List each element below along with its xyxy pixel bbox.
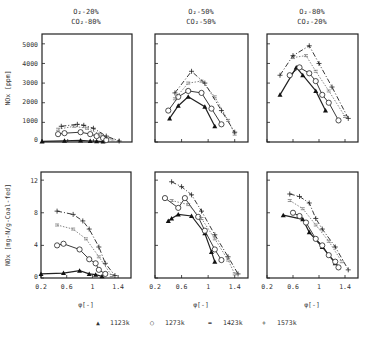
tick-4000: 4000 [22,60,38,68]
panel-top-middle [155,34,248,142]
top-y-tick-labels: 5000 4000 3000 2000 1000 0 [22,41,38,144]
legend-marker-1573k: + [262,319,266,327]
series-1123k [166,212,218,264]
legend-marker-1123k: ▲ [96,319,100,327]
panel-bottom-middle [155,172,248,278]
tick-0b: 0 [34,273,38,281]
title-col3-line2: CO₂-20% [297,18,327,26]
x-tick-1.4: 1.4 [229,283,241,291]
tick-3000: 3000 [22,79,38,87]
legend: ▲ 1123k ○ 1273k = 1423k + 1573k [96,319,297,327]
plot-panels [39,34,359,278]
tick-1000: 1000 [22,117,38,125]
legend-label-1123k: 1123k [110,319,130,327]
legend-marker-1273k: ○ [150,319,154,327]
title-col2-line2: CO₂-50% [186,18,216,26]
tick-12: 12 [30,177,38,185]
x-tick-0.6: 0.6 [61,283,73,291]
panel-top-right [267,34,358,142]
title-col3-line1: O₂-80% [299,8,325,16]
x-tick-1: 1 [90,283,94,291]
series-1423k [288,200,344,263]
series-1273k [287,65,341,123]
series-1123k [278,65,329,113]
x-tick-labels: 0.20.611.40.20.611.40.20.611.4 [35,283,351,291]
panel-bottom-right [267,172,358,278]
legend-label-1423k: 1423k [223,319,243,327]
tick-4: 4 [34,241,38,249]
legend-label-1573k: 1573k [277,319,297,327]
top-y-axis-label: NOx [ppm] [4,70,12,105]
title-col2-line1: O₂-50% [188,8,214,16]
x-tick-0.6: 0.6 [176,283,188,291]
x-tick-0.2: 0.2 [261,283,273,291]
nox-figure: O₂-20% CO₂-80% O₂-50% CO₂-50% O₂-80% CO₂… [0,0,381,339]
x-axis-label-2: φ[-] [193,301,209,309]
title-col1-line1: O₂-20% [73,8,99,16]
series-1123k [39,268,105,278]
x-tick-0.2: 0.2 [35,283,47,291]
x-tick-0.2: 0.2 [149,283,161,291]
tick-2000: 2000 [22,98,38,106]
panel-bottom-left [39,172,132,278]
x-axis-label-3: φ[-] [304,301,320,309]
column-titles: O₂-20% CO₂-80% O₂-50% CO₂-50% O₂-80% CO₂… [71,8,327,26]
tick-8: 8 [34,209,38,217]
bottom-y-axis-label: NOx [mg-N/g-Coal-fed] [4,184,12,266]
series-1123k [167,94,217,128]
series-1273k [162,195,224,262]
x-axis-label-1: φ[-] [78,301,94,309]
x-tick-1: 1 [206,283,210,291]
legend-label-1273k: 1273k [165,319,185,327]
panel-top-left [40,34,133,144]
x-tick-1.4: 1.4 [112,283,124,291]
legend-marker-1423k: = [208,319,212,327]
tick-0: 0 [34,136,38,144]
tick-5000: 5000 [22,41,38,49]
x-tick-1: 1 [317,283,321,291]
x-tick-1.4: 1.4 [339,283,351,291]
bottom-y-tick-labels: 12 8 4 0 [30,177,38,281]
series-1273k [166,88,224,127]
series-1423k [55,224,114,277]
x-tick-0.6: 0.6 [287,283,299,291]
title-col1-line2: CO₂-80% [71,18,101,26]
series-1573k [287,192,351,273]
